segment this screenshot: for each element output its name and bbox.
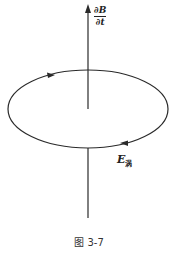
vortex-field-label: E涡 [117,153,132,168]
induction-diagram [0,0,178,256]
figure-caption: 图 3-7 [0,234,178,249]
e-subscript: 涡 [125,159,132,168]
fraction-denominator: ∂t [94,18,106,27]
fraction-numerator: ∂B [94,6,106,15]
dB-dt-label: ∂B ∂t [94,6,106,27]
arrow-up-icon [85,4,91,13]
